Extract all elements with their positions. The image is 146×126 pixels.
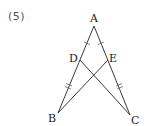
segment-dc (80, 60, 130, 115)
vertex-label-a: A (89, 12, 99, 25)
vertex-label-e: E (109, 52, 117, 65)
triangle-figure: A B C D E (0, 0, 146, 126)
vertex-label-d: D (69, 52, 78, 65)
segment-ac (94, 26, 130, 115)
double-tick-mark-db (65, 84, 72, 90)
vertex-label-b: B (48, 112, 56, 125)
vertex-label-c: C (131, 114, 139, 126)
double-tick-mark-ec (116, 84, 123, 90)
